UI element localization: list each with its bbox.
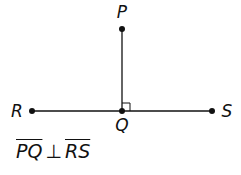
perpendicular-statement: PQ⊥RS bbox=[16, 140, 90, 162]
point-p bbox=[119, 26, 125, 32]
label-r: R bbox=[11, 101, 23, 121]
point-s bbox=[209, 108, 215, 114]
segment-name-pq: PQ bbox=[16, 140, 42, 162]
label-s: S bbox=[222, 101, 233, 121]
label-q: Q bbox=[115, 115, 128, 135]
segment-name-rs: RS bbox=[65, 140, 90, 162]
perpendicular-symbol: ⊥ bbox=[45, 140, 62, 162]
point-q bbox=[119, 108, 125, 114]
label-p: P bbox=[117, 2, 128, 22]
point-r bbox=[29, 108, 35, 114]
